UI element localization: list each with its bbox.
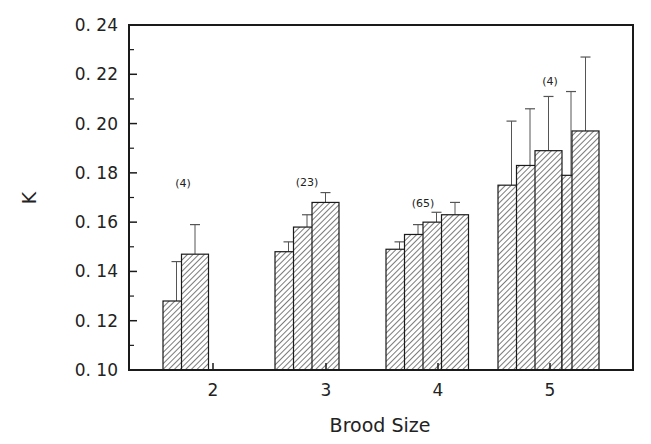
- bar: [312, 202, 339, 370]
- sample-size-label: (23): [296, 176, 319, 189]
- bar-group-5: (4): [498, 57, 599, 370]
- bar-groups: (4)(23)(65)(4): [163, 57, 599, 370]
- bar: [572, 131, 599, 370]
- sample-size-label: (65): [412, 197, 435, 210]
- x-tick-label: 5: [545, 380, 556, 400]
- x-tick-label: 4: [433, 380, 444, 400]
- y-tick-label: 0. 24: [75, 15, 118, 35]
- y-tick-label: 0. 14: [75, 261, 118, 281]
- y-axis: 0. 100. 120. 140. 160. 180. 200. 220. 24: [75, 15, 137, 380]
- y-tick-label: 0. 22: [75, 64, 118, 84]
- x-tick-label: 2: [208, 380, 219, 400]
- bar: [182, 254, 209, 370]
- y-tick-label: 0. 20: [75, 114, 118, 134]
- bar: [535, 151, 562, 370]
- bar-group-2: (4): [163, 177, 209, 370]
- x-tick-label: 3: [321, 380, 332, 400]
- y-tick-label: 0. 10: [75, 360, 118, 380]
- y-tick-label: 0. 12: [75, 311, 118, 331]
- bar-chart: 0. 100. 120. 140. 160. 180. 200. 220. 24…: [0, 0, 651, 444]
- bar-group-3: (23): [275, 176, 339, 370]
- bar: [442, 215, 469, 370]
- bar-group-4: (65): [386, 197, 469, 370]
- sample-size-label: (4): [175, 177, 191, 190]
- y-tick-label: 0. 18: [75, 163, 118, 183]
- sample-size-label: (4): [542, 75, 558, 88]
- y-axis-title: K: [18, 191, 40, 204]
- y-tick-label: 0. 16: [75, 212, 118, 232]
- x-axis-title: Brood Size: [330, 414, 431, 436]
